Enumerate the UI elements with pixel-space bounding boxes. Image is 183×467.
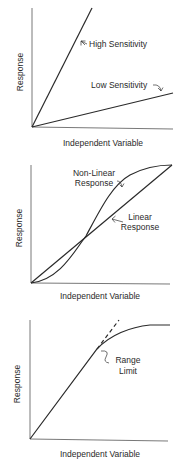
arrow-icon — [81, 41, 87, 46]
high-sensitivity-line — [32, 8, 92, 127]
nonlinear-label-line2: Response — [75, 178, 114, 188]
sensitivity-diagram: High Sensitivity Low Sensitivity Indepen… — [15, 8, 173, 148]
nonlinear-label-line1: Non-Linear — [73, 168, 115, 178]
linear-label-line1: Linear — [128, 212, 152, 222]
y-axis-label: Response — [12, 365, 22, 404]
high-sensitivity-label: High Sensitivity — [89, 39, 148, 49]
x-axis-label: Independent Variable — [63, 138, 143, 148]
x-axis — [30, 439, 168, 441]
x-axis-label: Independent Variable — [60, 291, 140, 301]
diagram-canvas: High Sensitivity Low Sensitivity Indepen… — [0, 0, 183, 467]
y-axis-label: Response — [15, 53, 25, 92]
arrow-icon — [153, 85, 163, 91]
range-limit-label-line2: Limit — [119, 366, 138, 376]
x-axis — [32, 127, 173, 129]
response-curve — [30, 325, 170, 439]
y-axis-label: Response — [14, 209, 24, 248]
range-diagram: Range Limit Independent Variable Respons… — [12, 320, 170, 459]
bracket-icon — [101, 351, 109, 363]
x-axis — [31, 283, 170, 284]
linear-label-line2: Response — [121, 222, 160, 232]
low-sensitivity-line — [32, 93, 173, 127]
linearity-diagram: Non-Linear Response Linear Response Inde… — [14, 165, 172, 301]
low-sensitivity-label: Low Sensitivity — [91, 80, 148, 90]
x-axis-label: Independent Variable — [60, 449, 140, 459]
range-limit-label-line1: Range — [115, 355, 140, 365]
